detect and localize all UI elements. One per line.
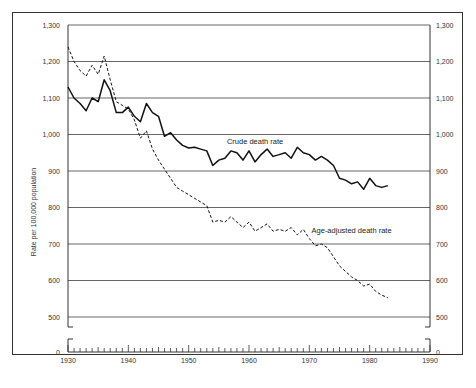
- x-tick-label: 1930: [60, 357, 76, 364]
- x-tick-label: 1950: [181, 357, 197, 364]
- y-tick-label-right: 700: [436, 241, 448, 248]
- y-tick-label-right: 1,300: [436, 22, 454, 29]
- gridlines: [68, 25, 430, 317]
- series-lines: [68, 47, 388, 298]
- y-tick-label-right: 800: [436, 204, 448, 211]
- y-tick-label-left: 1,100: [42, 95, 60, 102]
- y-tick-label-right: 1,100: [436, 95, 454, 102]
- y-axis-title: Rate per 100,000 population: [30, 168, 38, 256]
- y-tick-label-left: 600: [48, 277, 60, 284]
- y-tick-label-left: 700: [48, 241, 60, 248]
- y-tick-label-right: 1,200: [436, 58, 454, 65]
- age-adjusted-death-rate-line: [68, 47, 388, 298]
- x-tick-label: 1970: [302, 357, 318, 364]
- axes: [68, 25, 430, 352]
- x-tick-label: 1960: [241, 357, 257, 364]
- y-tick-label-right: 500: [436, 314, 448, 321]
- series-annotations: Crude death rateAge-adjusted death rate: [227, 137, 392, 235]
- y-axis-left-labels: 05006007008009001,0001,1001,2001,300: [42, 22, 60, 356]
- series-annotation-label: Age-adjusted death rate: [312, 226, 392, 235]
- x-axis-labels: 1930194019501960197019801990: [60, 357, 438, 364]
- y-tick-label-right: 600: [436, 277, 448, 284]
- line-chart: 05006007008009001,0001,1001,2001,300 050…: [0, 0, 476, 388]
- y-tick-label-left: 0: [56, 349, 60, 356]
- y-tick-label-left: 1,300: [42, 22, 60, 29]
- y-tick-label-left: 900: [48, 168, 60, 175]
- x-tick-label: 1990: [422, 357, 438, 364]
- x-tick-label: 1940: [121, 357, 137, 364]
- x-tick-label: 1980: [362, 357, 378, 364]
- y-tick-label-left: 500: [48, 314, 60, 321]
- y-tick-label-right: 1,000: [436, 131, 454, 138]
- y-tick-label-right: 0: [436, 349, 440, 356]
- series-annotation-label: Crude death rate: [227, 137, 283, 146]
- y-tick-label-left: 1,000: [42, 131, 60, 138]
- y-tick-label-left: 1,200: [42, 58, 60, 65]
- y-tick-label-left: 800: [48, 204, 60, 211]
- y-axis-right-labels: 05006007008009001,0001,1001,2001,300: [436, 22, 454, 356]
- y-tick-label-right: 900: [436, 168, 448, 175]
